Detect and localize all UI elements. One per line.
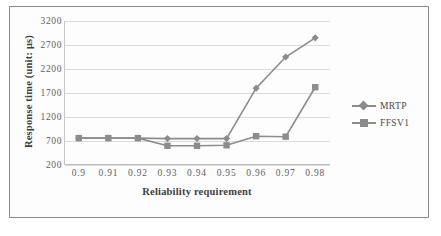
data-point-ffsv1[interactable] (105, 135, 111, 141)
gridline (65, 165, 330, 166)
y-axis-tick: 200 (22, 160, 62, 170)
x-axis-tick: 0.9 (72, 168, 86, 178)
series-layer (64, 21, 330, 165)
legend-item-mrtp[interactable]: MRTP (352, 98, 428, 114)
x-axis-tick-labels: 0.90.910.920.930.940.950.960.970.98 (64, 168, 330, 182)
x-axis-tick: 0.97 (276, 168, 296, 178)
diamond-marker-icon (352, 100, 376, 112)
data-point-ffsv1[interactable] (164, 143, 170, 149)
data-point-mrtp[interactable] (193, 135, 200, 142)
data-point-ffsv1[interactable] (312, 84, 318, 90)
x-axis-tick: 0.95 (217, 168, 237, 178)
y-axis-tick: 3200 (22, 16, 62, 26)
chart-figure: Response time (unit: μs) 200700120017002… (0, 0, 441, 236)
y-axis-tick-labels: 20070012001700220027003200 (18, 21, 62, 165)
y-axis-tick: 2200 (22, 64, 62, 74)
data-point-mrtp[interactable] (164, 135, 171, 142)
chart-legend: MRTP FFSV1 (352, 98, 428, 132)
x-axis-tick: 0.92 (128, 168, 148, 178)
data-point-ffsv1[interactable] (135, 135, 141, 141)
square-marker-icon (352, 117, 376, 129)
data-point-ffsv1[interactable] (282, 133, 288, 139)
y-axis-tick: 1700 (22, 88, 62, 98)
y-axis-tick: 2700 (22, 40, 62, 50)
line-chart: Response time (unit: μs) 200700120017002… (0, 0, 441, 236)
y-axis-tick: 700 (22, 136, 62, 146)
legend-item-ffsv1[interactable]: FFSV1 (352, 115, 428, 131)
data-point-mrtp[interactable] (223, 135, 230, 142)
x-axis-tick: 0.94 (187, 168, 207, 178)
series-line-mrtp (79, 38, 315, 139)
data-point-ffsv1[interactable] (194, 143, 200, 149)
data-point-ffsv1[interactable] (253, 133, 259, 139)
legend-label: MRTP (380, 101, 407, 111)
data-point-ffsv1[interactable] (76, 135, 82, 141)
x-axis-tick: 0.96 (246, 168, 266, 178)
y-axis-tick: 1200 (22, 112, 62, 122)
x-axis-tick: 0.93 (158, 168, 178, 178)
x-axis-title: Reliability requirement (64, 186, 330, 197)
legend-label: FFSV1 (380, 118, 409, 128)
x-axis-tick: 0.98 (305, 168, 325, 178)
data-point-ffsv1[interactable] (223, 142, 229, 148)
x-axis-tick: 0.91 (98, 168, 118, 178)
